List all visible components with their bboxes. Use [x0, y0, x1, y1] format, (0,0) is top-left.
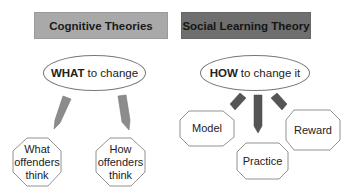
practice-label: Practice — [243, 155, 283, 168]
arrow-to-how-offenders-think — [118, 95, 130, 130]
box-line: How — [109, 143, 131, 156]
how-offenders-think-box: How offenders think — [96, 140, 145, 184]
box-line: What — [24, 143, 50, 156]
arrow-to-practice — [254, 95, 262, 133]
arrow-to-reward — [271, 93, 287, 110]
arrow-to-what-offenders-think — [54, 96, 71, 129]
reward-label: Reward — [294, 124, 332, 137]
reward-box: Reward — [286, 110, 340, 150]
arrow-to-model — [230, 93, 246, 110]
model-box: Model — [180, 111, 234, 146]
model-label: Model — [192, 122, 222, 135]
what-offenders-think-box: What offenders think — [13, 140, 61, 184]
box-line: offenders — [14, 156, 60, 169]
practice-box: Practice — [237, 143, 288, 179]
box-line: think — [25, 169, 48, 182]
box-line: think — [109, 169, 132, 182]
box-line: offenders — [98, 156, 144, 169]
